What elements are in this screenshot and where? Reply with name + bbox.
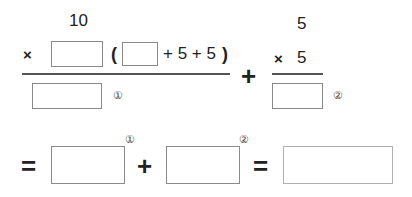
- close-paren: ): [222, 45, 228, 63]
- sum-box-1[interactable]: [51, 146, 125, 184]
- multiplicand-5: 5: [297, 15, 306, 32]
- multiplicand-10: 10: [69, 12, 88, 29]
- times-sign-right: ×: [274, 51, 283, 66]
- inner-sum-box[interactable]: [122, 42, 158, 66]
- expression-tail: + 5 + 5: [163, 45, 216, 62]
- sum-box-2[interactable]: [166, 146, 240, 184]
- plus-sign-bottom: +: [137, 153, 152, 179]
- fraction-line-right: [272, 73, 323, 75]
- product-box-1[interactable]: [32, 83, 102, 109]
- fraction-line-left: [22, 73, 230, 75]
- multiplier-5: 5: [297, 49, 306, 66]
- open-paren: (: [111, 45, 117, 63]
- result-box[interactable]: [283, 146, 393, 184]
- label-circle-2: ②: [333, 90, 343, 101]
- sum-label-1: ①: [125, 134, 135, 145]
- plus-sign-large: +: [241, 63, 256, 89]
- product-box-2[interactable]: [272, 83, 323, 109]
- label-circle-1: ①: [113, 90, 123, 101]
- equals-sign-2: =: [253, 153, 268, 179]
- times-sign-left: ×: [23, 47, 32, 62]
- equals-sign-1: =: [21, 153, 36, 179]
- sum-label-2: ②: [239, 134, 249, 145]
- multiplier-box[interactable]: [51, 41, 103, 67]
